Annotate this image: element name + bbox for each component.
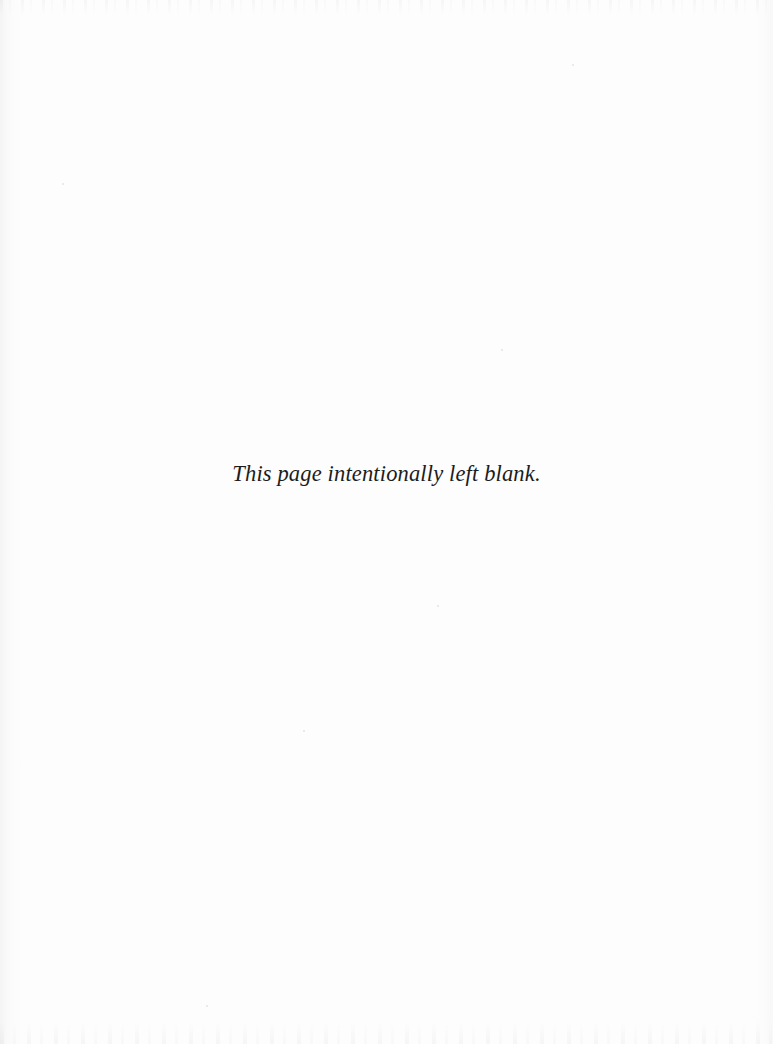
page-intentionally-blank-notice: This page intentionally left blank. xyxy=(0,460,773,488)
scanned-page: This page intentionally left blank. xyxy=(0,0,773,1044)
paper-background xyxy=(0,0,773,1044)
